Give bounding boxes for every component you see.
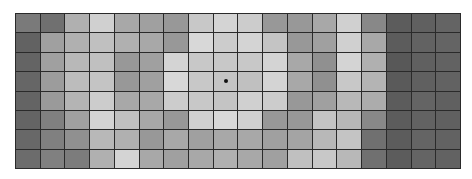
grid-cell[interactable] <box>115 150 139 168</box>
grid-cell[interactable] <box>238 92 262 110</box>
grid-cell[interactable] <box>288 53 312 71</box>
grid-cell[interactable] <box>288 92 312 110</box>
grid-cell[interactable] <box>362 53 386 71</box>
grid-cell[interactable] <box>288 130 312 148</box>
grid-cell[interactable] <box>436 92 460 110</box>
grid-cell[interactable] <box>412 111 436 129</box>
grid-cell[interactable] <box>214 92 238 110</box>
grid-cell[interactable] <box>263 53 287 71</box>
grid-cell[interactable] <box>140 150 164 168</box>
grid-cell[interactable] <box>189 92 213 110</box>
grid-cell[interactable] <box>16 111 40 129</box>
grid-cell[interactable] <box>387 33 411 51</box>
grid-cell[interactable] <box>387 14 411 32</box>
grid-cell[interactable] <box>313 33 337 51</box>
grid-cell[interactable] <box>189 33 213 51</box>
grid-cell[interactable] <box>337 33 361 51</box>
grid-cell[interactable] <box>238 53 262 71</box>
grid-cell[interactable] <box>140 92 164 110</box>
grid-cell[interactable] <box>164 150 188 168</box>
grid-cell[interactable] <box>140 14 164 32</box>
grid-cell[interactable] <box>387 92 411 110</box>
grid-cell[interactable] <box>362 33 386 51</box>
grid-cell[interactable] <box>313 130 337 148</box>
grid-cell[interactable] <box>189 150 213 168</box>
grid-cell[interactable] <box>238 150 262 168</box>
grid-cell[interactable] <box>189 14 213 32</box>
grid-cell[interactable] <box>263 130 287 148</box>
grid-cell[interactable] <box>189 53 213 71</box>
grid-cell[interactable] <box>41 72 65 90</box>
grid-cell[interactable] <box>164 92 188 110</box>
grid-cell[interactable] <box>65 72 89 90</box>
grid-cell[interactable] <box>189 130 213 148</box>
grid-cell[interactable] <box>436 53 460 71</box>
grid-cell[interactable] <box>238 72 262 90</box>
grid-cell[interactable] <box>115 92 139 110</box>
grid-cell[interactable] <box>412 150 436 168</box>
grid-cell[interactable] <box>263 72 287 90</box>
grid-cell[interactable] <box>337 53 361 71</box>
grid-cell[interactable] <box>288 150 312 168</box>
grid-cell[interactable] <box>41 14 65 32</box>
grid-cell[interactable] <box>313 92 337 110</box>
grid-cell[interactable] <box>164 111 188 129</box>
grid-cell[interactable] <box>16 72 40 90</box>
grid-cell[interactable] <box>436 130 460 148</box>
grid-cell[interactable] <box>65 111 89 129</box>
grid-cell[interactable] <box>140 33 164 51</box>
grid-cell[interactable] <box>140 72 164 90</box>
grid-cell[interactable] <box>16 14 40 32</box>
grid-cell[interactable] <box>90 14 114 32</box>
grid-cell[interactable] <box>65 14 89 32</box>
grid-cell[interactable] <box>288 111 312 129</box>
grid-cell[interactable] <box>189 111 213 129</box>
grid-cell[interactable] <box>337 14 361 32</box>
grid-cell[interactable] <box>387 150 411 168</box>
grid-cell[interactable] <box>65 150 89 168</box>
grid-cell[interactable] <box>214 111 238 129</box>
grid-cell[interactable] <box>337 72 361 90</box>
grid-cell[interactable] <box>387 130 411 148</box>
grid-cell[interactable] <box>288 72 312 90</box>
grid-cell[interactable] <box>90 92 114 110</box>
grid-cell[interactable] <box>115 72 139 90</box>
grid-cell[interactable] <box>238 130 262 148</box>
grid-cell[interactable] <box>313 72 337 90</box>
grid-cell[interactable] <box>313 53 337 71</box>
grid-cell[interactable] <box>412 14 436 32</box>
grid-cell[interactable] <box>41 53 65 71</box>
grid-cell[interactable] <box>313 150 337 168</box>
grid-cell[interactable] <box>238 14 262 32</box>
grid-cell[interactable] <box>16 150 40 168</box>
grid-cell[interactable] <box>164 130 188 148</box>
grid-cell[interactable] <box>65 33 89 51</box>
grid-cell[interactable] <box>263 14 287 32</box>
grid-cell[interactable] <box>140 130 164 148</box>
grid-cell[interactable] <box>387 53 411 71</box>
grid-cell[interactable] <box>115 111 139 129</box>
grid-cell[interactable] <box>412 92 436 110</box>
grid-cell[interactable] <box>90 72 114 90</box>
grid-cell[interactable] <box>164 53 188 71</box>
grid-cell[interactable] <box>115 53 139 71</box>
grid-cell[interactable] <box>214 53 238 71</box>
grid-cell[interactable] <box>65 130 89 148</box>
grid-cell[interactable] <box>65 92 89 110</box>
grid-cell[interactable] <box>337 130 361 148</box>
grid-cell[interactable] <box>214 72 238 90</box>
grid-cell[interactable] <box>115 14 139 32</box>
grid-cell[interactable] <box>164 33 188 51</box>
grid-cell[interactable] <box>412 33 436 51</box>
grid-cell[interactable] <box>90 33 114 51</box>
grid-cell[interactable] <box>313 14 337 32</box>
grid-cell[interactable] <box>362 150 386 168</box>
grid-cell[interactable] <box>263 92 287 110</box>
grid-cell[interactable] <box>362 92 386 110</box>
grid-cell[interactable] <box>41 150 65 168</box>
grid-cell[interactable] <box>337 111 361 129</box>
grid-cell[interactable] <box>164 14 188 32</box>
grid-cell[interactable] <box>337 92 361 110</box>
grid-cell[interactable] <box>288 14 312 32</box>
grid-cell[interactable] <box>41 33 65 51</box>
